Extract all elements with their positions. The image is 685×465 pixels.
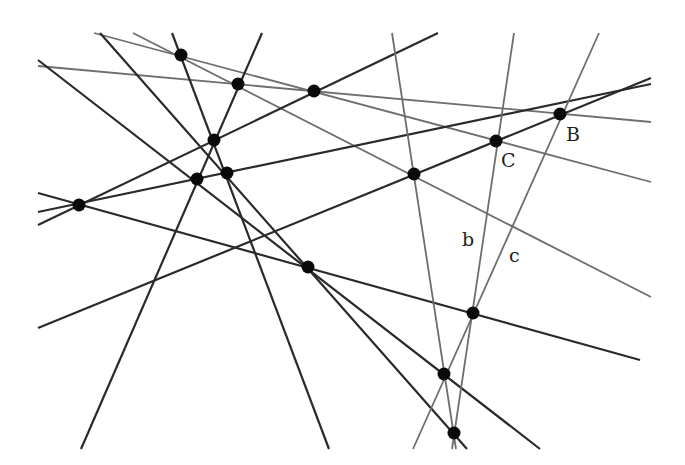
label-b: b xyxy=(462,228,474,250)
point-C xyxy=(490,135,503,148)
point-p11 xyxy=(302,261,315,274)
point-p14 xyxy=(448,427,461,440)
point-p3 xyxy=(308,85,321,98)
point-p4 xyxy=(208,134,221,147)
label-B: B xyxy=(566,123,580,145)
point-p8 xyxy=(408,168,421,181)
label-C: C xyxy=(501,149,516,171)
point-p6 xyxy=(221,167,234,180)
point-p1 xyxy=(175,49,188,62)
point-p7 xyxy=(73,199,86,212)
point-B xyxy=(554,108,567,121)
label-c: c xyxy=(509,244,520,266)
point-p13 xyxy=(438,368,451,381)
point-p5 xyxy=(191,173,204,186)
point-p2 xyxy=(232,78,245,91)
point-p12 xyxy=(467,307,480,320)
line-arrangement-diagram: BCbc xyxy=(0,0,685,465)
